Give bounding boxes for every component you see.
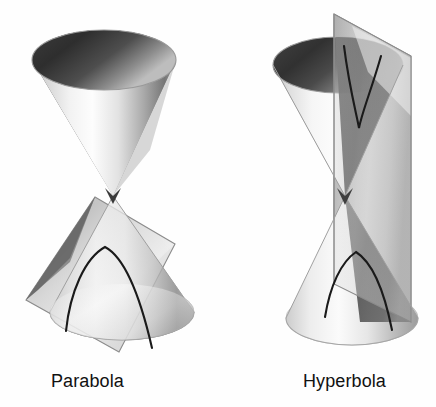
parabola-panel: P — [26, 30, 194, 393]
hyperbola-panel — [273, 14, 418, 345]
lower-cone-base-overlay — [50, 284, 194, 340]
hyperbola-caption: Hyperbola — [303, 371, 386, 392]
parabola-upper-nappe — [32, 30, 176, 196]
conic-sections-illustration: P — [0, 0, 436, 407]
parabola-caption: Parabola — [51, 371, 124, 392]
conic-sections-figure: P — [0, 0, 436, 407]
